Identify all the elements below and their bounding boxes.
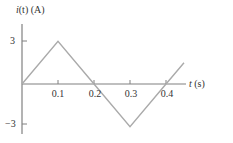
x-axis-label: t (s)	[189, 79, 205, 89]
x-tick-label-0.1: 0.1	[52, 89, 65, 99]
x-tick-label-0.4: 0.4	[161, 89, 174, 99]
x-axis-label-unit: (s)	[192, 78, 205, 89]
y-tick-label-neg3: −3	[5, 119, 16, 129]
y-axis-label: i(t) (A)	[16, 5, 45, 15]
y-axis-label-rest: (t) (A)	[19, 4, 45, 15]
y-tick-label-3: 3	[10, 36, 15, 46]
chart-canvas	[0, 0, 233, 143]
x-tick-label-0.3: 0.3	[125, 89, 138, 99]
x-tick-label-0.2: 0.2	[89, 89, 102, 99]
